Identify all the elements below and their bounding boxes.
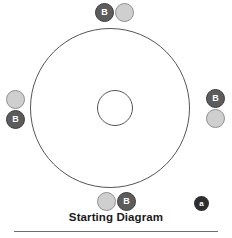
token-right-light [206, 109, 225, 128]
figure-caption: Starting Diagram [0, 211, 232, 223]
token-left-light [6, 90, 25, 109]
token-label: B [101, 8, 108, 17]
token-label: B [212, 94, 219, 103]
token-left-dark-b: B [6, 110, 25, 129]
token-label: B [123, 197, 130, 206]
token-top-light [115, 3, 134, 22]
token-right-dark-b: B [206, 89, 225, 108]
hub-circle [97, 90, 133, 126]
marker-a-badge: a [194, 196, 209, 211]
token-label: B [12, 115, 19, 124]
token-bottom-light [97, 192, 116, 211]
marker-a-label: a [199, 200, 203, 208]
token-bottom-dark-b: B [117, 192, 136, 211]
figure-divider-rule [14, 231, 218, 232]
token-top-dark-b: B [95, 3, 114, 22]
starting-diagram-figure: B B B B a Starting Diagram [0, 0, 232, 238]
